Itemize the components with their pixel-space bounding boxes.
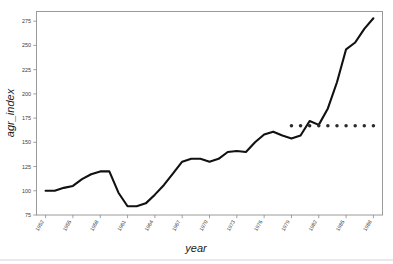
y-tick-label: 75 <box>25 212 31 218</box>
chart-figure: 75100125150175200225250275 1952195519581… <box>0 0 393 264</box>
y-tick-label: 150 <box>22 139 31 145</box>
y-tick-label: 225 <box>22 67 31 73</box>
y-tick-label: 100 <box>22 188 31 194</box>
series-dot-marker <box>317 124 321 128</box>
series-dot-marker <box>363 124 367 128</box>
x-axis-title: year <box>184 242 208 254</box>
figure-background <box>0 0 393 264</box>
y-tick-label: 275 <box>22 18 31 24</box>
y-tick-label: 200 <box>22 91 31 97</box>
series-dot-marker <box>335 124 339 128</box>
y-tick-label: 175 <box>22 115 31 121</box>
series-dot-marker <box>290 124 294 128</box>
y-axis-title: agr_index <box>4 88 16 137</box>
series-dot-marker <box>326 124 330 128</box>
y-tick-label: 125 <box>22 164 31 170</box>
y-tick-label: 250 <box>22 42 31 48</box>
bottom-divider <box>0 259 393 261</box>
series-dot-marker <box>344 124 348 128</box>
series-dot-marker <box>308 124 312 128</box>
series-dot-marker <box>372 124 376 128</box>
series-dot-marker <box>353 124 357 128</box>
agr-index-line-chart: 75100125150175200225250275 1952195519581… <box>0 0 393 264</box>
series-dot-marker <box>299 124 303 128</box>
